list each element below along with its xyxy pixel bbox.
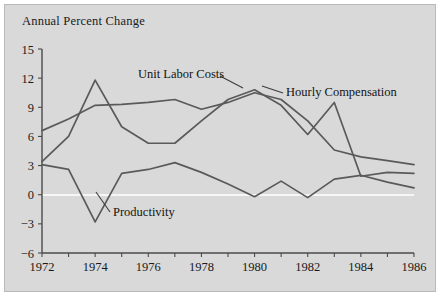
x-tick-label: 1976	[136, 260, 161, 274]
series-line-productivity	[42, 163, 414, 222]
hourly-compensation-leader-line	[262, 86, 283, 93]
y-tick-label: 6	[28, 130, 34, 144]
data-series-group	[42, 80, 414, 222]
x-tick-label: 1980	[242, 260, 267, 274]
line-chart-plot: 15129630−3−6 197219741976197819801982198…	[0, 0, 440, 296]
y-tick-label: 0	[28, 188, 34, 202]
y-tick-label: 15	[22, 43, 35, 57]
y-tick-label: 9	[28, 101, 34, 115]
y-axis-tick-labels: 15129630−3−6	[21, 43, 34, 261]
y-tick-label: 12	[22, 72, 35, 86]
x-tick-label: 1974	[83, 260, 109, 274]
x-tick-label: 1978	[189, 260, 214, 274]
x-tick-label: 1984	[348, 260, 374, 274]
series-label-unit-labor-costs: Unit Labor Costs	[138, 67, 224, 81]
y-tick-label: −3	[21, 217, 34, 231]
series-label-hourly-compensation: Hourly Compensation	[286, 85, 398, 99]
y-tick-label: 3	[28, 159, 34, 173]
y-tick-label: −6	[21, 247, 34, 261]
chart-figure: Annual Percent Change 15129630−3−6 19721…	[0, 0, 440, 296]
x-tick-label: 1972	[30, 260, 55, 274]
x-tick-label: 1986	[402, 260, 427, 274]
x-tick-label: 1982	[295, 260, 320, 274]
series-line-hourly-compensation	[42, 93, 414, 165]
x-axis-tick-labels: 19721974197619781980198219841986	[30, 260, 427, 274]
series-label-productivity: Productivity	[113, 205, 176, 219]
